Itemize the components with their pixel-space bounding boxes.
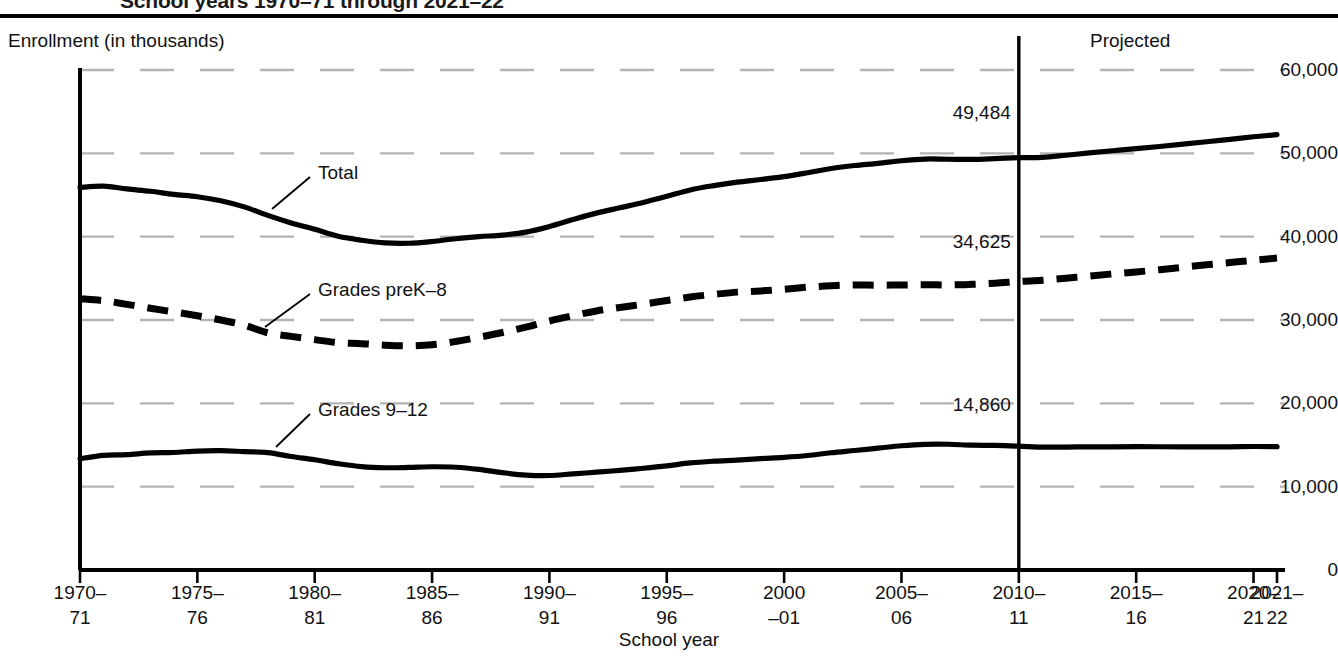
gridlines	[80, 70, 1285, 487]
x-tick-label: 1990–91	[489, 580, 609, 630]
series-callout-label: Grades 9–12	[318, 399, 428, 421]
x-tick-label: 2021–22	[1229, 580, 1325, 630]
chart-title: School years 1970–71 through 2021–22	[120, 0, 504, 13]
x-tick-label: 2005–06	[841, 580, 961, 630]
y-tick-label: 30,000	[1260, 309, 1338, 331]
series-callout-label: Grades preK–8	[318, 279, 447, 301]
series-value-label: 14,860	[953, 394, 1011, 416]
series-callout-label: Total	[318, 162, 358, 184]
x-axis-title: School year	[0, 629, 1338, 651]
plot-area	[0, 0, 1338, 662]
series-line	[80, 444, 1277, 475]
x-tick-label: 1975–76	[137, 580, 257, 630]
series-line	[80, 135, 1277, 244]
x-tick-label: 2000–01	[724, 580, 844, 630]
data-series-group	[80, 135, 1277, 476]
y-tick-label: 0	[1260, 559, 1338, 581]
y-axis-title: Enrollment (in thousands)	[8, 30, 225, 52]
x-tick-label: 2010–11	[959, 580, 1079, 630]
series-line	[80, 258, 1277, 346]
projected-region-label: Projected	[1090, 30, 1170, 52]
series-value-label: 34,625	[953, 231, 1011, 253]
title-divider	[0, 14, 1338, 18]
enrollment-line-chart: School years 1970–71 through 2021–22 Enr…	[0, 0, 1338, 662]
x-tick-label: 1970–71	[20, 580, 140, 630]
series-value-label: 49,484	[953, 102, 1011, 124]
x-tick-label: 2015–16	[1076, 580, 1196, 630]
y-tick-label: 40,000	[1260, 226, 1338, 248]
x-tick-label: 1995–96	[607, 580, 727, 630]
x-tick-label: 1980–81	[255, 580, 375, 630]
chart-title-strip: School years 1970–71 through 2021–22	[0, 0, 1338, 14]
y-tick-label: 10,000	[1260, 476, 1338, 498]
y-tick-label: 20,000	[1260, 392, 1338, 414]
y-tick-label: 60,000	[1260, 59, 1338, 81]
y-tick-label: 50,000	[1260, 142, 1338, 164]
x-tick-label: 1985–86	[372, 580, 492, 630]
